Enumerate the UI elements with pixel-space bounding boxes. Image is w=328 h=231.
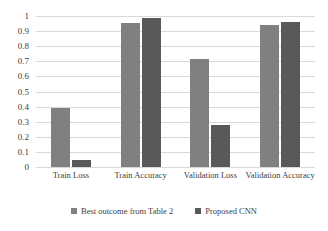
y-axis: 10.90.80.70.60.50.40.30.20.10 (0, 16, 33, 167)
bar-chart: 10.90.80.70.60.50.40.30.20.10 Train Loss… (0, 0, 328, 231)
legend-item: Proposed CNN (195, 206, 257, 216)
legend-label: Best outcome from Table 2 (81, 206, 173, 216)
legend-swatch-icon (71, 208, 77, 214)
y-axis-tick-label: 0.2 (18, 132, 29, 141)
bar (281, 22, 300, 167)
y-axis-tick-label: 0.1 (18, 147, 29, 156)
y-axis-tick-label: 0.4 (18, 102, 29, 111)
gridline (36, 167, 315, 168)
x-axis-category-label: Train Accuracy (106, 170, 176, 181)
bar (211, 125, 230, 167)
y-axis-tick-label: 1 (25, 12, 30, 21)
bar-layer (36, 16, 315, 167)
bar (142, 18, 161, 167)
x-axis-category-label: Validation Accuracy (245, 170, 315, 181)
y-axis-tick-label: 0.6 (18, 72, 29, 81)
x-axis-category-label: Validation Loss (176, 170, 246, 181)
bar (51, 108, 70, 167)
bar (260, 25, 279, 167)
bar (190, 59, 209, 167)
y-axis-tick-label: 0.5 (18, 87, 29, 96)
y-axis-tick-label: 0 (25, 163, 30, 172)
y-axis-tick-label: 0.7 (18, 57, 29, 66)
y-axis-tick-label: 0.8 (18, 42, 29, 51)
bar (72, 160, 91, 167)
y-axis-tick-label: 0.3 (18, 117, 29, 126)
chart-legend: Best outcome from Table 2Proposed CNN (0, 206, 328, 216)
legend-label: Proposed CNN (205, 206, 257, 216)
legend-swatch-icon (195, 208, 201, 214)
y-axis-tick-label: 0.9 (18, 27, 29, 36)
x-axis: Train LossTrain AccuracyValidation LossV… (36, 170, 315, 202)
bar (121, 23, 140, 167)
x-axis-category-label: Train Loss (36, 170, 106, 181)
legend-item: Best outcome from Table 2 (71, 206, 173, 216)
